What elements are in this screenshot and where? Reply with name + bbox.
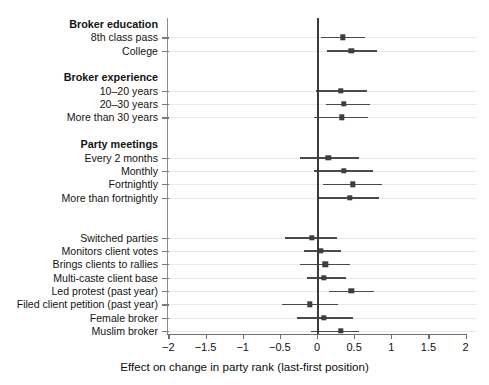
- row-label: 20–30 years: [0, 98, 158, 110]
- row-label: Female broker: [0, 312, 158, 324]
- row-label: 10–20 years: [0, 85, 158, 97]
- row-group-label: Party meetings: [0, 138, 158, 150]
- row-label: College: [0, 45, 158, 57]
- row-label: Switched parties: [0, 232, 158, 244]
- row-label: Monthly: [0, 165, 158, 177]
- x-axis-tick-label: 0: [314, 341, 320, 353]
- x-axis-title: Effect on change in party rank (last-fir…: [0, 360, 489, 373]
- row-label: More than 30 years: [0, 111, 158, 123]
- row-label: Filed client petition (past year): [0, 298, 158, 310]
- row-label: Monitors client votes: [0, 245, 158, 257]
- x-axis-tick: [280, 334, 281, 339]
- row-label: Muslim broker: [0, 325, 158, 337]
- x-axis-tick: [466, 334, 467, 339]
- row-label: Fortnightly: [0, 178, 158, 190]
- row-label: More than fortnightly: [0, 192, 158, 204]
- plot-area: [168, 18, 465, 334]
- x-axis-tick: [354, 334, 355, 339]
- row-label: 8th class pass: [0, 31, 158, 43]
- row-label: Brings clients to rallies: [0, 258, 158, 270]
- x-axis-tick-label: −1.5: [195, 341, 217, 353]
- x-axis-tick: [206, 334, 207, 339]
- coefficient-plot: Broker education8th class passCollegeBro…: [0, 0, 489, 385]
- x-axis-tick-label: 1.5: [421, 341, 436, 353]
- row-group-label: Broker education: [0, 18, 158, 30]
- x-axis-tick-label: −0.5: [269, 341, 291, 353]
- row-label: Every 2 months: [0, 152, 158, 164]
- x-axis-tick-label: 1: [388, 341, 394, 353]
- x-axis-tick-label: 0.5: [346, 341, 361, 353]
- x-axis-tick: [243, 334, 244, 339]
- x-axis-tick-label: 2: [463, 341, 469, 353]
- x-axis-tick: [391, 334, 392, 339]
- x-axis-tick: [317, 334, 318, 339]
- x-axis-tick: [168, 334, 169, 339]
- row-label: Led protest (past year): [0, 285, 158, 297]
- x-axis-tick-label: −2: [162, 341, 175, 353]
- x-axis-tick-label: −1: [236, 341, 249, 353]
- x-axis-tick: [428, 334, 429, 339]
- zero-reference-line: [317, 18, 319, 334]
- row-group-label: Broker experience: [0, 71, 158, 83]
- row-label: Multi-caste client base: [0, 272, 158, 284]
